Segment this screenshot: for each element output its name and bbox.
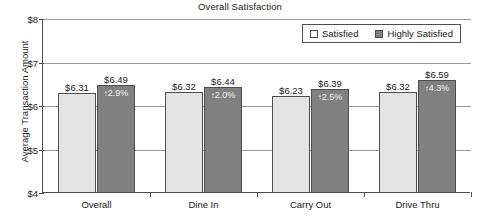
legend-label: Highly Satisfied xyxy=(387,28,452,39)
y-tick-label: $5 xyxy=(27,144,38,155)
up-arrow-icon: ↑ xyxy=(318,93,322,102)
bar-value-label: $6.44 xyxy=(211,76,235,87)
legend-label: Satisfied xyxy=(322,28,358,39)
up-arrow-icon: ↑ xyxy=(425,84,429,93)
legend-item-highly-satisfied: Highly Satisfied xyxy=(375,28,452,39)
y-tick-label: $4 xyxy=(27,188,38,199)
chart-legend: Satisfied Highly Satisfied xyxy=(302,24,461,43)
legend-item-satisfied: Satisfied xyxy=(310,28,358,39)
y-tick-label: $8 xyxy=(27,14,38,25)
bar[interactable]: $6.44↑2.0% xyxy=(204,87,242,193)
chart-title: Overall Satisfaction xyxy=(0,1,480,12)
up-arrow-icon: ↑ xyxy=(211,90,215,99)
chart-container: Overall Satisfaction Average Transaction… xyxy=(0,0,480,217)
x-category-label: Drive Thru xyxy=(395,199,439,210)
bar-change-label: ↑2.5% xyxy=(318,92,343,102)
bar-value-label: $6.32 xyxy=(386,81,410,92)
bar-value-label: $6.49 xyxy=(104,74,128,85)
bar-value-label: $6.39 xyxy=(318,78,342,89)
x-category-label: Carry Out xyxy=(290,199,331,210)
x-tick-mark xyxy=(150,192,151,197)
bar-change-label: ↑4.3% xyxy=(425,83,450,93)
x-category-label: Dine In xyxy=(188,199,218,210)
bar[interactable]: $6.32 xyxy=(379,92,417,193)
x-tick-mark xyxy=(364,192,365,197)
bar-value-label: $6.59 xyxy=(425,69,449,80)
plot-area: $4$5$6$7$8 $6.31$6.49↑2.9%$6.32$6.44↑2.0… xyxy=(42,19,470,193)
y-tick-label: $6 xyxy=(27,101,38,112)
bar[interactable]: $6.49↑2.9% xyxy=(97,85,135,193)
bar[interactable]: $6.39↑2.5% xyxy=(311,89,349,193)
bar-change-label: ↑2.9% xyxy=(104,88,129,98)
bar[interactable]: $6.31 xyxy=(58,93,96,193)
bar[interactable]: $6.32 xyxy=(165,92,203,193)
legend-swatch-icon xyxy=(375,30,383,38)
legend-swatch-icon xyxy=(310,30,318,38)
x-tick-mark xyxy=(257,192,258,197)
x-category-label: Overall xyxy=(81,199,111,210)
bar-change-label: ↑2.0% xyxy=(211,90,236,100)
y-tick-mark xyxy=(39,193,44,194)
bar-value-label: $6.23 xyxy=(279,85,303,96)
up-arrow-icon: ↑ xyxy=(104,88,108,97)
bar-value-label: $6.31 xyxy=(65,82,89,93)
bar[interactable]: $6.59↑4.3% xyxy=(418,80,456,193)
bar-value-label: $6.32 xyxy=(172,81,196,92)
bars-layer: $6.31$6.49↑2.9%$6.32$6.44↑2.0%$6.23$6.39… xyxy=(43,19,471,193)
bar[interactable]: $6.23 xyxy=(272,96,310,193)
y-tick-label: $7 xyxy=(27,57,38,68)
x-tick-mark xyxy=(471,192,472,197)
